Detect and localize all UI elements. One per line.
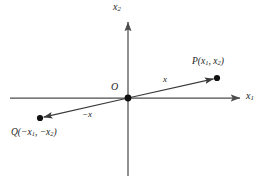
point-q-dot xyxy=(37,115,43,121)
point-p-dot xyxy=(214,75,220,81)
vector-negative-x-label: −x xyxy=(82,110,92,119)
point-q-label-prefix: Q(− xyxy=(11,127,27,137)
axis-x1-label: x1 xyxy=(246,91,254,102)
origin-dot xyxy=(125,95,132,102)
point-q-label-separator: , − xyxy=(35,127,46,137)
vector-x-label: x xyxy=(163,75,167,84)
point-p-label-prefix: P( xyxy=(192,56,201,66)
origin-label: O xyxy=(111,82,118,92)
vector-x-line xyxy=(128,79,214,98)
axis-x2-label: x2 xyxy=(113,2,121,13)
point-p-label-suffix: ) xyxy=(221,56,224,66)
axis-x2-label-subscript: 2 xyxy=(117,5,120,12)
point-q-label: Q(−x1, −x2) xyxy=(11,128,57,138)
point-q-label-suffix: ) xyxy=(54,127,57,137)
axis-x1-label-subscript: 1 xyxy=(250,94,253,101)
diagram-canvas xyxy=(0,0,271,189)
point-p-label: P(x1, x2) xyxy=(192,57,224,67)
vector-diagram-figure: x2 x1 O P(x1, x2) Q(−x1, −x2) x −x xyxy=(0,0,271,189)
